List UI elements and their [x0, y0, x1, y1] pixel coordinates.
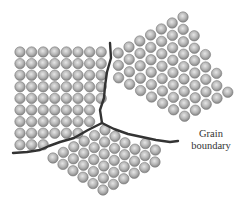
atom	[179, 111, 189, 121]
atom	[201, 99, 211, 109]
atom	[15, 128, 25, 138]
atom	[109, 167, 119, 177]
atoms-layer	[15, 12, 233, 195]
atom	[168, 105, 178, 115]
atom	[179, 86, 189, 96]
atom	[150, 145, 160, 155]
atom	[146, 42, 156, 52]
atom	[145, 30, 155, 40]
atom	[99, 149, 109, 159]
atom	[96, 47, 106, 57]
atom	[178, 24, 188, 34]
atom	[156, 36, 166, 46]
atom	[61, 128, 71, 138]
atom	[179, 61, 189, 71]
atom	[88, 166, 98, 176]
atom	[15, 116, 25, 126]
atom	[89, 130, 99, 140]
atom	[98, 185, 108, 195]
atom	[179, 74, 189, 84]
atom	[84, 70, 94, 80]
atom	[124, 67, 134, 77]
atom	[78, 160, 88, 170]
atom	[73, 82, 83, 92]
atom	[84, 82, 94, 92]
atom	[146, 67, 156, 77]
atom	[189, 55, 199, 65]
atom	[108, 179, 118, 189]
atom	[157, 61, 167, 71]
atom	[119, 174, 129, 184]
atom	[99, 161, 109, 171]
atom	[178, 49, 188, 59]
atom	[120, 138, 130, 148]
atom	[110, 131, 120, 141]
atom	[135, 73, 145, 83]
atom	[48, 153, 58, 163]
atom	[84, 105, 94, 115]
atom	[157, 49, 167, 59]
atom	[99, 137, 109, 147]
atom	[168, 67, 178, 77]
atom	[167, 43, 177, 53]
atom	[200, 49, 210, 59]
atom	[129, 168, 139, 178]
atom	[190, 105, 200, 115]
atom	[50, 82, 60, 92]
atom	[113, 73, 123, 83]
atom	[124, 79, 134, 89]
grain-boundary-diagram	[0, 0, 241, 205]
atom	[61, 70, 71, 80]
atom	[223, 87, 233, 97]
atom	[167, 18, 177, 28]
atom	[26, 82, 36, 92]
atom	[68, 166, 78, 176]
atom	[130, 144, 140, 154]
atom	[15, 47, 25, 57]
atom	[26, 105, 36, 115]
atom	[73, 105, 83, 115]
atom	[50, 128, 60, 138]
atom	[50, 105, 60, 115]
atom	[38, 128, 48, 138]
atom	[167, 30, 177, 40]
atom	[69, 142, 79, 152]
atom	[61, 58, 71, 68]
atom	[140, 150, 150, 160]
atom	[38, 58, 48, 68]
atom	[73, 93, 83, 103]
atom	[26, 93, 36, 103]
atom	[68, 154, 78, 164]
atom	[15, 105, 25, 115]
atom	[190, 93, 200, 103]
atom	[96, 58, 106, 68]
grain-right	[113, 12, 233, 122]
atom	[179, 99, 189, 109]
atom	[178, 37, 188, 47]
atom	[190, 68, 200, 78]
atom	[124, 54, 134, 64]
atom	[73, 70, 83, 80]
atom	[38, 82, 48, 92]
atom	[15, 140, 25, 150]
atom	[212, 93, 222, 103]
atom	[146, 55, 156, 65]
atom	[15, 70, 25, 80]
atom	[88, 178, 98, 188]
atom	[73, 58, 83, 68]
atom	[139, 162, 149, 172]
atom	[201, 87, 211, 97]
atom	[84, 93, 94, 103]
atom	[15, 82, 25, 92]
atom	[178, 12, 188, 22]
grain-boundary-label: Grain boundary	[181, 128, 241, 152]
atom	[26, 140, 36, 150]
atom	[38, 47, 48, 57]
atom	[157, 98, 167, 108]
atom	[89, 142, 99, 152]
atom	[26, 70, 36, 80]
atom	[84, 47, 94, 57]
atom	[168, 80, 178, 90]
atom	[50, 47, 60, 57]
atom	[58, 147, 68, 157]
